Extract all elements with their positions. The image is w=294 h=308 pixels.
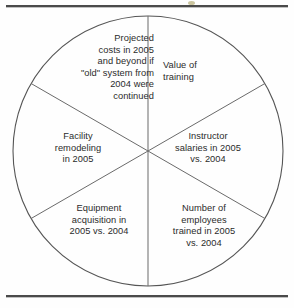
segment-label-instructor-salaries: Instructor salaries in 2005 vs. 2004	[156, 131, 260, 166]
segment-label-facility-remodeling: Facility remodeling in 2005	[28, 131, 128, 166]
figure-page: Projected costs in 2005 and beyond if "o…	[0, 0, 294, 308]
segment-label-value-of-training: Value of training	[163, 60, 243, 83]
page-rule-bottom	[6, 295, 288, 297]
segment-label-projected-costs: Projected costs in 2005 and beyond if "o…	[58, 33, 154, 103]
segment-label-equipment-acquisition: Equipment acquisition in 2005 vs. 2004	[48, 203, 150, 238]
segment-label-number-employees: Number of employees trained in 2005 vs. …	[152, 203, 256, 249]
